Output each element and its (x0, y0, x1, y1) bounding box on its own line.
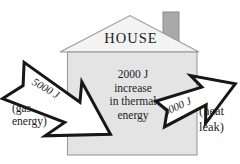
house-energy-diagram: HOUSE 2000 J increase in thermal energy … (0, 0, 240, 164)
thermal-line-1: 2000 J (95, 68, 171, 82)
house-title: HOUSE (95, 30, 167, 47)
thermal-line-2: increase (95, 82, 171, 96)
heat-leak-caption: (heat leak) (199, 103, 224, 135)
gas-caption-line-1: (gas (12, 102, 47, 115)
heat-caption-line-2: leak) (199, 119, 224, 135)
gas-energy-caption: (gas energy) (12, 102, 47, 127)
heat-caption-line-1: (heat (199, 103, 224, 119)
gas-caption-line-2: energy) (12, 115, 47, 128)
